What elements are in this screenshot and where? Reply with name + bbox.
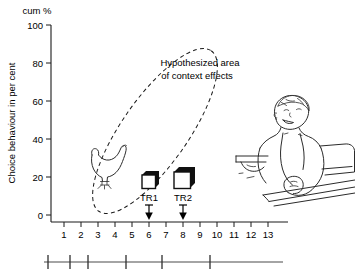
x-tick-label-5: 5 xyxy=(129,229,134,240)
bottom-timeline xyxy=(44,255,283,269)
x-tick-label-1: 1 xyxy=(61,229,66,240)
y-tick-label-20: 20 xyxy=(32,172,43,183)
x-tick-label-10: 10 xyxy=(212,229,223,240)
x-tick-label-4: 4 xyxy=(112,229,117,240)
x-tick-label-6: 6 xyxy=(146,229,151,240)
marker-label-tr1: TR1 xyxy=(140,192,158,203)
figure-container: 100 80 60 40 20 0 cum % Choice behaviour… xyxy=(0,0,355,279)
y-tick-label-60: 60 xyxy=(32,96,43,107)
y-axis-unit-label: cum % xyxy=(23,5,53,16)
y-tick-label-40: 40 xyxy=(32,134,43,145)
x-tick-label-2: 2 xyxy=(78,229,83,240)
x-axis: 1 2 3 4 5 6 7 8 9 10 11 12 13 xyxy=(51,222,288,240)
x-tick-label-11: 11 xyxy=(229,229,239,240)
down-arrow-icon-tr1 xyxy=(145,205,153,220)
x-tick-label-12: 12 xyxy=(246,229,257,240)
stimulus-box-large-icon xyxy=(174,167,195,189)
baby-at-table-icon xyxy=(236,95,355,206)
y-axis-title: Choice behaviour in per cent xyxy=(6,62,17,183)
x-tick-label-3: 3 xyxy=(95,229,100,240)
y-axis: 100 80 60 40 20 0 xyxy=(27,20,51,223)
x-tick-label-13: 13 xyxy=(263,229,274,240)
chart-canvas: 100 80 60 40 20 0 cum % Choice behaviour… xyxy=(0,0,355,279)
x-tick-label-7: 7 xyxy=(163,229,168,240)
chicken-icon xyxy=(92,145,127,189)
stimulus-box-small-icon xyxy=(142,171,159,189)
marker-label-tr2: TR2 xyxy=(174,192,192,203)
hypothesized-area-label-line2: of context effects xyxy=(161,70,233,81)
y-tick-label-0: 0 xyxy=(38,210,43,221)
hypothesized-area-label-line1: Hypothesized area xyxy=(160,57,240,68)
y-tick-label-100: 100 xyxy=(27,20,43,31)
x-tick-label-9: 9 xyxy=(197,229,202,240)
x-tick-label-8: 8 xyxy=(180,229,185,240)
y-tick-label-80: 80 xyxy=(32,58,43,69)
down-arrow-icon-tr2 xyxy=(179,205,187,220)
